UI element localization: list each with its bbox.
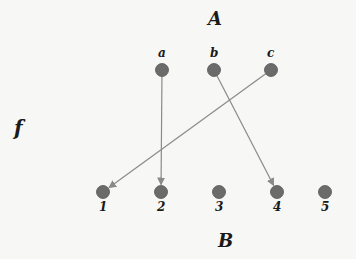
node-label-c: c	[267, 46, 274, 60]
function-f-label: f	[14, 116, 23, 140]
edge-a-to-2	[161, 76, 162, 184]
node-a	[156, 64, 169, 77]
node-label-a: a	[158, 46, 166, 60]
node-label-3: 3	[215, 200, 223, 214]
node-4	[271, 186, 284, 199]
node-label-5: 5	[321, 200, 329, 214]
node-1	[97, 186, 110, 199]
node-label-1: 1	[99, 200, 107, 214]
node-b	[208, 64, 221, 77]
set-a-label: A	[208, 8, 222, 29]
node-3	[213, 186, 226, 199]
mapping-diagram	[0, 0, 356, 259]
node-2	[155, 186, 168, 199]
edge-b-to-4	[217, 76, 274, 186]
node-label-b: b	[210, 46, 218, 60]
node-c	[265, 64, 278, 77]
set-b-label: B	[218, 230, 233, 251]
node-5	[319, 186, 332, 199]
node-label-4: 4	[273, 200, 281, 214]
node-label-2: 2	[157, 200, 165, 214]
edge-c-to-1	[109, 74, 266, 188]
